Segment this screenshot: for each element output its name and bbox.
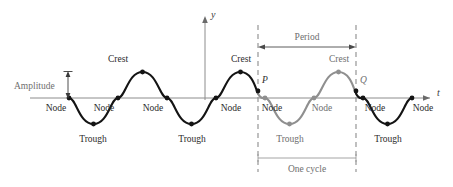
trough-label: Trough <box>79 135 107 145</box>
y-axis-label: y <box>211 10 215 20</box>
marker-trough <box>287 122 292 127</box>
amplitude-arrow <box>64 71 73 99</box>
marker-trough <box>385 122 390 127</box>
period-arrow <box>258 44 356 49</box>
amplitude-label: Amplitude <box>14 82 55 92</box>
wave-plot-svg <box>0 0 453 187</box>
marker-node <box>410 96 415 101</box>
node-label: Node <box>365 104 386 114</box>
period-label: Period <box>295 33 320 43</box>
marker-node <box>214 96 219 101</box>
point-q-label: Q <box>360 76 367 86</box>
node-label: Node <box>262 104 283 114</box>
marker-node <box>165 96 170 101</box>
marker-node <box>116 96 121 101</box>
trough-label: Trough <box>374 135 402 145</box>
marker-crest <box>336 70 341 75</box>
node-label: Node <box>221 104 242 114</box>
marker-crest <box>140 70 145 75</box>
marker-node <box>312 96 317 101</box>
node-label: Node <box>312 104 333 114</box>
marker-point-q <box>354 89 359 94</box>
t-axis <box>30 95 430 101</box>
node-label: Node <box>143 104 164 114</box>
crest-label: Crest <box>329 55 349 65</box>
marker-node <box>263 96 268 101</box>
crest-label: Crest <box>108 55 128 65</box>
node-label: Node <box>46 104 67 114</box>
marker-trough <box>189 122 194 127</box>
wave-diagram-figure: y t Amplitude Period One cycle P Q Crest… <box>0 0 453 187</box>
one-cycle-bracket <box>258 154 356 162</box>
marker-node <box>361 96 366 101</box>
crest-label: Crest <box>231 55 251 65</box>
t-axis-label: t <box>437 88 440 98</box>
marker-crest <box>238 70 243 75</box>
y-axis <box>202 16 208 100</box>
node-label: Node <box>413 104 434 114</box>
marker-trough <box>91 122 96 127</box>
point-p-label: P <box>262 76 268 86</box>
trough-label: Trough <box>178 135 206 145</box>
one-cycle-label: One cycle <box>288 165 326 175</box>
node-label: Node <box>94 104 115 114</box>
trough-label: Trough <box>276 135 304 145</box>
marker-point-p <box>256 89 261 94</box>
